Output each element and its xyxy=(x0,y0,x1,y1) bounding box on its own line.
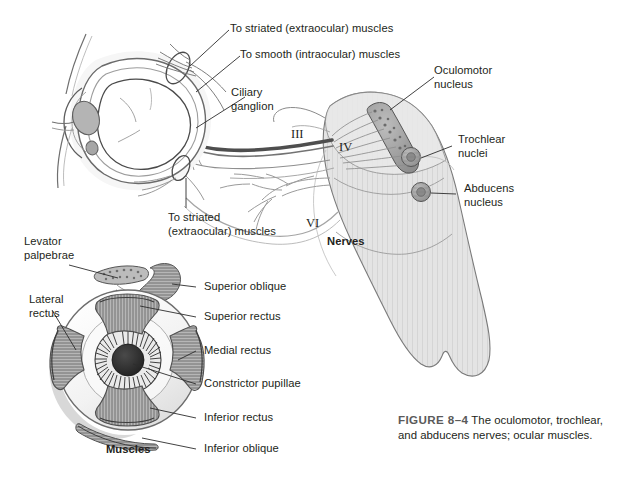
label-lateral-rectus-line2: rectus xyxy=(29,307,60,321)
figure-container: To striated (extraocular) muscles To smo… xyxy=(0,0,626,484)
label-to-striated-extraocular-muscles-lower-line2: (extraocular) muscles xyxy=(168,225,276,239)
label-cranial-nerve-six: VI xyxy=(306,216,319,231)
label-to-smooth-intraocular-muscles: To smooth (intraocular) muscles xyxy=(240,48,400,62)
label-ciliary-ganglion-line2: ganglion xyxy=(231,100,274,114)
label-constrictor-pupillae: Constrictor pupillae xyxy=(204,377,301,391)
label-oculomotor-nucleus-line2: nucleus xyxy=(434,78,473,92)
figure-caption: FIGURE 8–4 The oculomotor, trochlear, an… xyxy=(398,412,608,443)
label-superior-rectus: Superior rectus xyxy=(204,310,281,324)
label-to-striated-extraocular-muscles-lower-line1: To striated xyxy=(168,211,220,225)
label-levator-palpebrae-line1: Levator xyxy=(24,235,62,249)
panel-title-muscles: Muscles xyxy=(106,443,151,457)
label-inferior-rectus: Inferior rectus xyxy=(204,411,273,425)
label-abducens-nucleus-line2: nucleus xyxy=(464,196,503,210)
label-inferior-oblique: Inferior oblique xyxy=(204,442,279,456)
levator-palpebrae-shape xyxy=(94,266,148,284)
label-ciliary-ganglion-line1: Ciliary xyxy=(231,86,262,100)
eye-sagittal-section xyxy=(52,34,211,190)
label-superior-oblique: Superior oblique xyxy=(204,280,286,294)
label-lateral-rectus-line1: Lateral xyxy=(29,293,64,307)
label-cranial-nerve-four: IV xyxy=(339,140,352,155)
cn-four-nerve xyxy=(180,157,334,179)
label-trochlear-nuclei-line2: nuclei xyxy=(458,147,488,161)
label-levator-palpebrae-line2: palpebrae xyxy=(24,249,74,263)
label-abducens-nucleus-line1: Abducens xyxy=(464,182,514,196)
label-cranial-nerve-three: III xyxy=(291,127,304,142)
iris-radial-fibres xyxy=(95,327,161,393)
label-to-striated-extraocular-muscles-upper: To striated (extraocular) muscles xyxy=(230,22,393,36)
label-medial-rectus: Medial rectus xyxy=(204,344,271,358)
label-trochlear-nuclei-line1: Trochlear xyxy=(458,133,505,147)
panel-title-nerves: Nerves xyxy=(327,235,365,249)
muscles-panel-art xyxy=(49,264,204,451)
figure-number: FIGURE 8–4 xyxy=(398,413,468,426)
label-oculomotor-nucleus-line1: Oculomotor xyxy=(434,64,492,78)
abducens-nucleus-shape xyxy=(412,183,431,202)
